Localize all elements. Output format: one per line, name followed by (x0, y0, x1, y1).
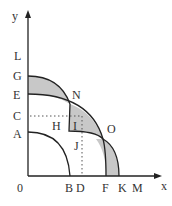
origin-label: 0 (17, 181, 23, 195)
label-f: F (102, 181, 109, 195)
label-b: B (65, 181, 73, 195)
label-a: A (13, 127, 22, 141)
label-e: E (13, 88, 20, 102)
label-d: D (76, 181, 85, 195)
label-o: O (107, 122, 116, 136)
ppf-diagram: y x 0 L G E C A B D F K M N O H I J (0, 0, 172, 206)
y-axis-label: y (12, 9, 18, 23)
label-l: L (14, 49, 21, 63)
curve-ab (28, 132, 70, 176)
x-axis-label: x (161, 179, 167, 193)
label-m: M (132, 181, 143, 195)
label-g: G (13, 69, 22, 83)
shaded-region-lower (96, 139, 119, 176)
y-axis-arrow-icon (25, 10, 31, 18)
label-n: N (72, 88, 81, 102)
label-i: I (73, 119, 77, 133)
label-j: J (74, 139, 79, 153)
label-c: C (13, 109, 21, 123)
label-h: H (52, 119, 61, 133)
label-k: K (118, 181, 127, 195)
